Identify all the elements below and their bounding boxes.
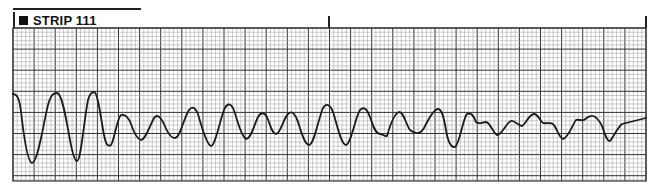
ecg-strip	[0, 0, 656, 191]
ecg-grid	[13, 28, 646, 181]
